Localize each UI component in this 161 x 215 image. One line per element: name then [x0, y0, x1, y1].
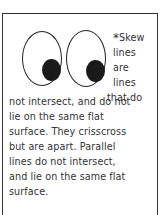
definition-text-wide: not intersect, and do not lie on the sam…: [9, 94, 159, 199]
left-eye-icon: [22, 31, 62, 86]
definition-card: *Skew lines are lines that do not inters…: [2, 13, 158, 215]
right-pupil: [86, 60, 105, 82]
text-line: and lie on the same flat: [9, 169, 159, 184]
text-line: lie on the same flat: [9, 109, 159, 124]
asterisk: *: [113, 31, 119, 45]
text-line: lines: [113, 45, 159, 60]
text-line: are: [113, 60, 159, 75]
right-eye-icon: [66, 30, 106, 87]
text-line: lines do not intersect,: [9, 154, 159, 169]
text-line: surface.: [9, 184, 159, 199]
text-line: surface. They crisscross: [9, 124, 159, 139]
text-line: but are apart. Parallel: [9, 139, 159, 154]
text-line: *Skew: [113, 30, 159, 45]
text-line: lines: [113, 75, 159, 90]
text-line: not intersect, and do not: [9, 94, 159, 109]
left-pupil: [42, 59, 61, 81]
